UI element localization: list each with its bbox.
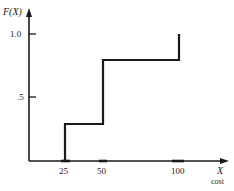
y-axis-arrow-icon — [26, 8, 32, 17]
x-axis-unit-label: cost — [211, 177, 225, 186]
x-tick-label-25: 25 — [59, 166, 69, 176]
x-axis-arrow-icon — [220, 158, 229, 164]
y-axis-label: F(X) — [2, 6, 23, 18]
cdf-step-line — [65, 34, 179, 161]
x-tick-label-100: 100 — [171, 166, 185, 176]
x-tick-label-50: 50 — [97, 166, 107, 176]
y-tick-label-05: .5 — [17, 92, 24, 102]
y-tick-label-1: 1.0 — [10, 29, 22, 39]
cdf-chart: F(X) 1.0 .5 25 50 100 X cost — [0, 0, 234, 191]
x-axis-label: X — [216, 165, 224, 176]
